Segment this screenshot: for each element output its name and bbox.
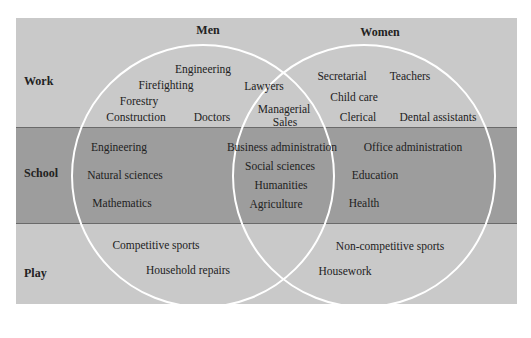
men-school-item: Mathematics [92, 198, 151, 210]
both-work-item: Sales [273, 117, 297, 129]
men-school-item: Natural sciences [87, 170, 163, 182]
women-play-item: Housework [318, 266, 371, 278]
men-school-item: Engineering [91, 142, 147, 154]
women-header: Women [360, 26, 399, 38]
men-play-item: Competitive sports [112, 240, 199, 252]
men-work-item: Doctors [194, 112, 230, 124]
women-work-item: Dental assistants [400, 112, 477, 124]
both-work-item: Lawyers [244, 81, 284, 93]
women-work-item: Teachers [390, 71, 431, 83]
women-work-item: Clerical [340, 112, 376, 124]
men-work-item: Construction [106, 112, 165, 124]
men-work-item: Engineering [175, 64, 231, 76]
men-work-item: Firefighting [139, 80, 194, 92]
row-label-play: Play [24, 267, 47, 279]
both-school-item: Social sciences [245, 161, 315, 173]
row-label-work: Work [24, 75, 53, 87]
men-work-item: Forestry [120, 96, 158, 108]
women-play-item: Non-competitive sports [336, 241, 444, 253]
row-label-school: School [24, 167, 58, 179]
both-school-item: Humanities [254, 180, 307, 192]
women-school-item: Office administration [364, 142, 462, 154]
both-school-item: Business administration [227, 142, 337, 154]
women-work-item: Child care [330, 92, 378, 104]
both-school-item: Agriculture [249, 199, 302, 211]
men-play-item: Household repairs [146, 265, 230, 277]
women-school-item: Health [349, 198, 380, 210]
men-header: Men [196, 24, 219, 36]
both-work-item: Managerial [258, 104, 310, 116]
women-work-item: Secretarial [317, 71, 366, 83]
women-school-item: Education [352, 170, 399, 182]
